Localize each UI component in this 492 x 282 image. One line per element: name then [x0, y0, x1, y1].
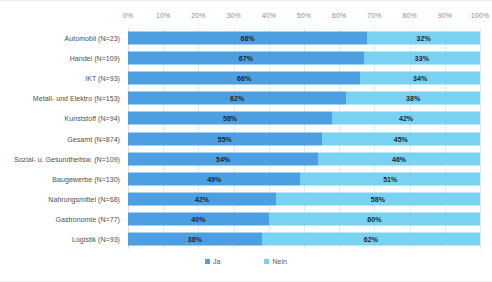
x-axis-tick-label: 60% [332, 12, 346, 19]
bar-row[interactable]: 49%51% [128, 172, 480, 185]
plot-area: 68%32%67%33%66%34%62%38%58%42%55%45%54%4… [128, 28, 480, 249]
bar-segment-nein[interactable]: 33% [364, 52, 480, 65]
chart-top-border [0, 0, 492, 1]
bar-value-label: 38% [188, 235, 202, 242]
stacked-bar-chart: 0%10%20%30%40%50%60%70%80%90%100% Automo… [0, 0, 492, 282]
bar-value-label: 45% [394, 135, 408, 142]
bar-row[interactable]: 67%33% [128, 52, 480, 65]
x-axis-tick-label: 0% [123, 12, 133, 19]
category-label: Baugewerbe (N=130) [52, 175, 120, 182]
bar-row[interactable]: 66%34% [128, 72, 480, 85]
bar-value-label: 34% [413, 75, 427, 82]
category-label: IKT (N=93) [85, 75, 120, 82]
bar-value-label: 33% [415, 55, 429, 62]
bar-value-label: 46% [392, 155, 406, 162]
bar-segment-ja[interactable]: 38% [128, 232, 262, 245]
bar-segment-ja[interactable]: 54% [128, 152, 318, 165]
bar-row[interactable]: 68%32% [128, 32, 480, 45]
bar-segment-ja[interactable]: 58% [128, 112, 332, 125]
bar-value-label: 49% [207, 175, 221, 182]
bar-value-label: 58% [223, 115, 237, 122]
bar-value-label: 51% [383, 175, 397, 182]
x-axis-tick-label: 80% [402, 12, 416, 19]
bar-value-label: 42% [195, 195, 209, 202]
bar-segment-ja[interactable]: 62% [128, 92, 346, 105]
bar-value-label: 54% [216, 155, 230, 162]
category-label: Metall- und Elektro (N=153) [33, 95, 120, 102]
x-axis-tick-labels: 0%10%20%30%40%50%60%70%80%90%100% [128, 12, 480, 26]
chart-legend: JaNein [0, 258, 492, 265]
legend-item-ja[interactable]: Ja [205, 258, 221, 265]
category-label: Gesamt (N=874) [67, 135, 120, 142]
bar-segment-ja[interactable]: 68% [128, 32, 367, 45]
bar-segment-ja[interactable]: 67% [128, 52, 364, 65]
legend-label: Ja [213, 258, 221, 265]
bar-segment-nein[interactable]: 42% [332, 112, 480, 125]
bar-value-label: 40% [191, 215, 205, 222]
bar-segment-nein[interactable]: 60% [269, 212, 480, 225]
bar-segment-nein[interactable]: 38% [346, 92, 480, 105]
bar-segment-ja[interactable]: 55% [128, 132, 322, 145]
bar-value-label: 68% [241, 35, 255, 42]
bar-segment-ja[interactable]: 42% [128, 192, 276, 205]
x-axis-tick-label: 100% [471, 12, 489, 19]
gridline [480, 28, 481, 249]
x-axis-tick-label: 90% [438, 12, 452, 19]
legend-label: Nein [272, 258, 287, 265]
bar-row[interactable]: 54%46% [128, 152, 480, 165]
bar-value-label: 66% [237, 75, 251, 82]
x-axis-tick-label: 70% [367, 12, 381, 19]
bar-segment-ja[interactable]: 66% [128, 72, 360, 85]
bar-value-label: 42% [399, 115, 413, 122]
category-label: Handel (N=109) [70, 55, 120, 62]
category-label: Nahrungsmittel (N=68) [48, 195, 120, 202]
legend-item-nein[interactable]: Nein [264, 258, 287, 265]
x-axis-tick-label: 50% [297, 12, 311, 19]
bar-row[interactable]: 42%58% [128, 192, 480, 205]
bar-value-label: 58% [371, 195, 385, 202]
bar-segment-nein[interactable]: 62% [262, 232, 480, 245]
x-axis-tick-label: 10% [156, 12, 170, 19]
bar-segment-ja[interactable]: 40% [128, 212, 269, 225]
bar-value-label: 62% [364, 235, 378, 242]
y-axis-category-labels: Automobil (N=23)Handel (N=109)IKT (N=93)… [0, 28, 124, 249]
bar-value-label: 67% [239, 55, 253, 62]
bar-segment-nein[interactable]: 32% [367, 32, 480, 45]
bar-segment-nein[interactable]: 58% [276, 192, 480, 205]
bar-value-label: 38% [406, 95, 420, 102]
bar-value-label: 62% [230, 95, 244, 102]
x-axis-tick-label: 20% [191, 12, 205, 19]
bar-row[interactable]: 58%42% [128, 112, 480, 125]
category-label: Logistik (N=93) [72, 235, 120, 242]
bar-segment-ja[interactable]: 49% [128, 172, 300, 185]
x-axis-tick-label: 30% [226, 12, 240, 19]
category-label: Sozial- u. Gesundheitsw. (N=109) [14, 155, 120, 162]
bar-row[interactable]: 55%45% [128, 132, 480, 145]
category-label: Automobil (N=23) [65, 35, 120, 42]
x-axis-tick-label: 40% [262, 12, 276, 19]
bar-value-label: 60% [367, 215, 381, 222]
bar-value-label: 55% [218, 135, 232, 142]
legend-swatch-icon [205, 259, 210, 264]
bar-segment-nein[interactable]: 51% [300, 172, 480, 185]
bar-value-label: 32% [417, 35, 431, 42]
bar-row[interactable]: 62%38% [128, 92, 480, 105]
bar-segment-nein[interactable]: 46% [318, 152, 480, 165]
category-label: Kunststoff (N=94) [65, 115, 120, 122]
bar-row[interactable]: 38%62% [128, 232, 480, 245]
legend-swatch-icon [264, 259, 269, 264]
bar-segment-nein[interactable]: 45% [322, 132, 480, 145]
bar-segment-nein[interactable]: 34% [360, 72, 480, 85]
bar-row[interactable]: 40%60% [128, 212, 480, 225]
category-label: Gastronomie (N=77) [55, 215, 120, 222]
